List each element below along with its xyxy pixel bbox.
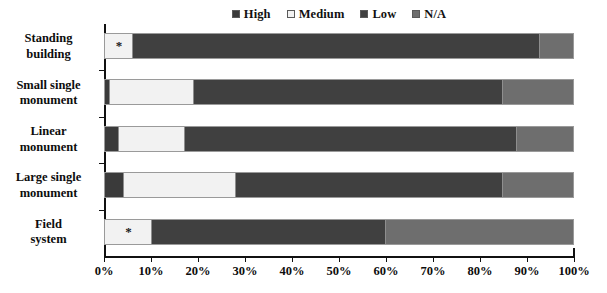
y-axis-label-standing-building: Standingbuilding	[0, 31, 97, 62]
legend-item-na: N/A	[412, 7, 446, 22]
bar-segment-n-a	[502, 80, 573, 104]
y-axis-label-line: Small single	[0, 78, 97, 94]
y-axis-label-large-single-monument: Large singlemonument	[0, 170, 97, 201]
bar-segment-low	[235, 173, 503, 197]
bar-segment-medium	[123, 173, 236, 197]
x-axis-tick-label: 90%	[504, 264, 550, 279]
asterisk-marker: *	[116, 39, 123, 52]
y-axis-label-field-system: Fieldsystem	[0, 217, 97, 248]
bar-segment-high	[105, 173, 124, 197]
stacked-bar-large-single-monument	[104, 172, 574, 198]
x-axis-tick-label: 30%	[222, 264, 268, 279]
bar-segment-low	[193, 80, 503, 104]
legend-swatch-high	[232, 10, 240, 18]
legend-item-high: High	[232, 7, 271, 22]
legend-item-low: Low	[360, 7, 396, 22]
stacked-bar-field-system: *	[104, 219, 574, 245]
x-axis-tick	[480, 257, 481, 262]
x-axis-tick-label: 100%	[551, 264, 597, 279]
y-axis-label-line: system	[0, 232, 97, 248]
y-axis-label-line: Standing	[0, 31, 97, 47]
bar-segment-n-a	[502, 173, 573, 197]
bar-row-linear-monument	[104, 117, 574, 163]
y-axis-label-line: Field	[0, 217, 97, 233]
legend-label-high: High	[244, 7, 271, 22]
bar-segment-low	[184, 127, 517, 151]
x-axis-tick-label: 10%	[128, 264, 174, 279]
bar-row-small-single-monument	[104, 70, 574, 116]
x-axis-tick-label: 40%	[269, 264, 315, 279]
x-axis-tick	[339, 257, 340, 262]
legend-item-medium: Medium	[287, 7, 345, 22]
stacked-bar-chart: High Medium Low N/A StandingbuildingSmal…	[0, 0, 607, 293]
stacked-bar-standing-building: *	[104, 33, 574, 59]
bar-segment-n-a	[539, 34, 573, 58]
x-axis-tick-label: 80%	[457, 264, 503, 279]
bar-segment-high	[105, 127, 119, 151]
stacked-bar-small-single-monument	[104, 79, 574, 105]
bar-segment-medium	[109, 80, 194, 104]
x-axis-tick	[574, 257, 575, 262]
x-axis-tick	[198, 257, 199, 262]
x-axis-tick-label: 60%	[363, 264, 409, 279]
x-axis-tick-label: 20%	[175, 264, 221, 279]
x-axis-tick-label: 70%	[410, 264, 456, 279]
y-axis-label-linear-monument: Linearmonument	[0, 124, 97, 155]
x-axis-tick	[151, 257, 152, 262]
x-axis-tick	[386, 257, 387, 262]
bar-segment-medium: *	[105, 34, 133, 58]
x-axis-tick	[292, 257, 293, 262]
y-axis-label-line: Large single	[0, 170, 97, 186]
y-axis-label-line: monument	[0, 93, 97, 109]
chart-legend: High Medium Low N/A	[104, 4, 574, 24]
legend-label-medium: Medium	[299, 7, 345, 22]
bar-segment-n-a	[516, 127, 573, 151]
plot-area: **	[104, 24, 574, 256]
y-axis-label-line: Linear	[0, 124, 97, 140]
bar-row-large-single-monument	[104, 163, 574, 209]
stacked-bar-linear-monument	[104, 126, 574, 152]
y-axis-label-line: monument	[0, 186, 97, 202]
legend-label-low: Low	[372, 7, 396, 22]
x-axis-tick	[245, 257, 246, 262]
bar-row-standing-building: *	[104, 24, 574, 70]
bar-segment-medium	[118, 127, 185, 151]
x-axis-tick-label: 50%	[316, 264, 362, 279]
x-axis-tick	[104, 257, 105, 262]
bar-segment-low	[151, 220, 386, 244]
y-axis-label-line: monument	[0, 140, 97, 156]
asterisk-marker: *	[125, 225, 132, 238]
bar-segment-medium: *	[105, 220, 152, 244]
legend-label-na: N/A	[424, 7, 446, 22]
y-axis-label-small-single-monument: Small singlemonument	[0, 78, 97, 109]
bar-segment-n-a	[385, 220, 573, 244]
y-axis-label-line: building	[0, 47, 97, 63]
x-axis-tick-label: 0%	[81, 264, 127, 279]
bar-segment-low	[132, 34, 540, 58]
legend-swatch-na	[412, 10, 420, 18]
legend-swatch-low	[360, 10, 368, 18]
bar-row-field-system: *	[104, 210, 574, 256]
x-axis-tick	[527, 257, 528, 262]
x-axis-tick	[433, 257, 434, 262]
legend-swatch-medium	[287, 10, 295, 18]
